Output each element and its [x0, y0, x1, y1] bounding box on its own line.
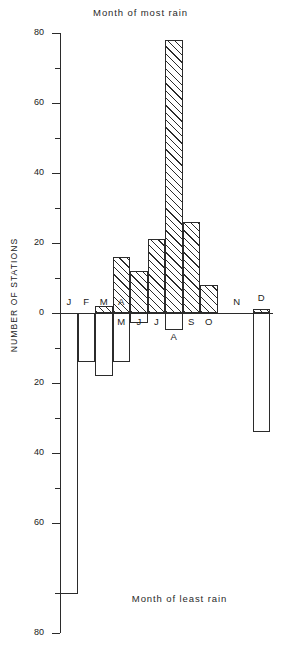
month-label-jan: J — [60, 296, 78, 307]
month-label-feb: F — [78, 296, 96, 307]
y-tick-80-up — [52, 33, 60, 34]
month-label-apr: A — [113, 296, 131, 307]
bar-negative-jan — [60, 313, 78, 594]
y-tick-30-up — [55, 208, 60, 209]
month-label-dec: D — [253, 292, 271, 303]
month-label-nov: N — [228, 296, 246, 307]
y-tick-20-up — [52, 243, 60, 244]
month-label-sep: S — [183, 316, 201, 327]
chart-title-bottom: Month of least rain — [78, 593, 281, 604]
y-tick-0 — [52, 313, 60, 314]
y-tick-label-60-down: 60 — [2, 517, 44, 527]
y-tick-50-up — [55, 138, 60, 139]
bar-negative-feb — [78, 313, 96, 362]
y-tick-60-up — [52, 103, 60, 104]
bar-positive-sep — [183, 222, 201, 313]
month-label-jun: J — [130, 316, 148, 327]
bar-positive-jun — [130, 271, 148, 313]
month-label-mar: M — [95, 296, 113, 307]
month-label-jul: J — [148, 316, 166, 327]
month-label-may: M — [113, 316, 131, 327]
y-tick-10-up — [55, 278, 60, 279]
y-tick-label-40-up: 40 — [2, 167, 44, 177]
bar-positive-oct — [200, 285, 218, 313]
rainfall-bar-chart: Month of most rain Month of least rain N… — [0, 0, 281, 652]
month-label-oct: O — [200, 316, 218, 327]
y-tick-40-up — [52, 173, 60, 174]
y-tick-label-0: 0 — [2, 307, 44, 317]
y-tick-label-60-up: 60 — [2, 97, 44, 107]
bar-negative-mar — [95, 313, 113, 376]
bar-negative-aug — [165, 313, 183, 331]
y-tick-label-20-down: 20 — [2, 377, 44, 387]
y-tick-label-20-up: 20 — [2, 237, 44, 247]
y-tick-label-80-up: 80 — [2, 27, 44, 37]
chart-title-top: Month of most rain — [0, 7, 281, 18]
y-tick-label-40-down: 40 — [2, 447, 44, 457]
y-tick-40-down — [52, 453, 60, 454]
y-tick-80-down — [52, 633, 60, 634]
y-tick-20-down — [52, 383, 60, 384]
y-tick-70-up — [55, 68, 60, 69]
y-tick-label-80-down: 80 — [2, 627, 44, 637]
y-tick-60-down — [52, 523, 60, 524]
bar-positive-aug — [165, 40, 183, 313]
month-label-aug: A — [165, 331, 183, 342]
bar-positive-jul — [148, 239, 166, 313]
bar-negative-dec — [253, 313, 271, 432]
